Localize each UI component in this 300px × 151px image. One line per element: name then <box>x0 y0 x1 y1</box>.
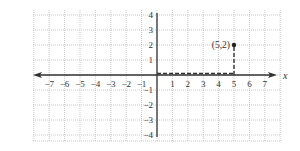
x-tick-label: −7 <box>44 79 54 89</box>
x-tick-label: 5 <box>232 79 237 89</box>
axes <box>33 13 277 137</box>
x-tick-label: −5 <box>75 79 85 89</box>
x-tick-label: −3 <box>106 79 116 89</box>
x-tick-label: 6 <box>247 79 252 89</box>
point-label: (5,2) <box>212 40 230 51</box>
x-axis-label: x <box>282 70 288 81</box>
y-tick-label: 4 <box>149 10 154 20</box>
y-tick-label: 1 <box>149 55 154 65</box>
x-tick-label: −2 <box>121 79 131 89</box>
y-tick-label: 2 <box>149 40 154 50</box>
x-tick-label: 4 <box>216 79 221 89</box>
x-tick-label: −6 <box>60 79 70 89</box>
x-tick-label: 3 <box>201 79 206 89</box>
y-tick-label: −3 <box>143 115 153 125</box>
y-tick-label: −4 <box>143 130 153 140</box>
coordinate-plane: −7−6−5−4−3−2−112345674321−1−2−3−4 (5,2) … <box>0 0 300 151</box>
x-tick-label: −4 <box>91 79 101 89</box>
y-tick-label: 3 <box>149 25 154 35</box>
data-points: (5,2) <box>212 40 236 51</box>
data-point <box>232 43 236 47</box>
x-tick-label: 7 <box>263 79 268 89</box>
x-tick-label: 2 <box>186 79 191 89</box>
x-tick-label: 1 <box>170 79 175 89</box>
y-tick-label: −1 <box>143 85 153 95</box>
y-tick-label: −2 <box>143 100 153 110</box>
